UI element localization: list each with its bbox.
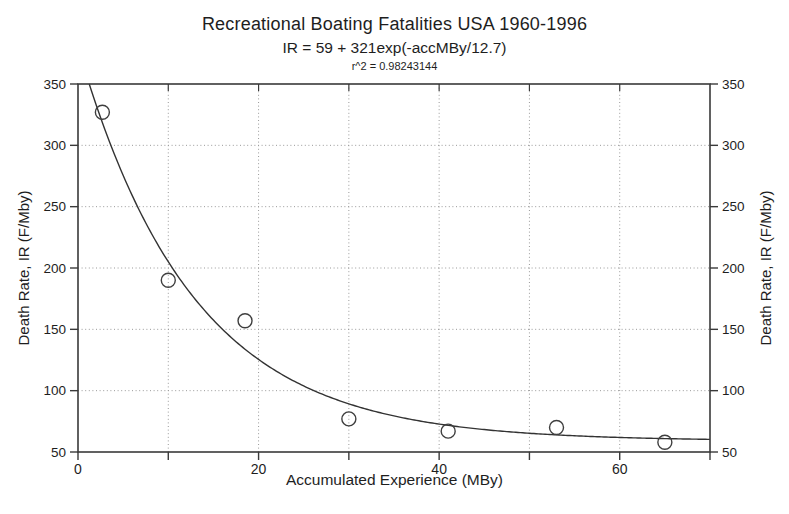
data-point (441, 424, 455, 438)
y-tick-label-left: 300 (43, 138, 66, 153)
x-tick-label: 0 (74, 461, 82, 477)
x-tick-label: 20 (251, 461, 267, 477)
data-point (658, 435, 672, 449)
y-tick-label-right: 50 (722, 445, 737, 460)
chart-figure: Recreational Boating Fatalities USA 1960… (0, 0, 789, 514)
y-tick-label-right: 100 (722, 383, 745, 398)
y-tick-label-left: 200 (43, 261, 66, 276)
plot-area: 0204060505010010015015020020025025030030… (0, 0, 789, 514)
x-tick-label: 60 (612, 461, 628, 477)
fit-curve (89, 84, 710, 439)
x-tick-label: 40 (431, 461, 447, 477)
y-tick-label-right: 350 (722, 77, 745, 92)
data-point (550, 420, 564, 434)
y-tick-label-left: 50 (51, 445, 66, 460)
y-tick-label-left: 250 (43, 199, 66, 214)
y-tick-label-right: 200 (722, 261, 745, 276)
y-tick-label-right: 150 (722, 322, 745, 337)
y-tick-label-left: 350 (43, 77, 66, 92)
data-point (95, 105, 109, 119)
y-tick-label-left: 150 (43, 322, 66, 337)
y-tick-label-right: 300 (722, 138, 745, 153)
data-point (238, 314, 252, 328)
y-tick-label-left: 100 (43, 383, 66, 398)
y-tick-label-right: 250 (722, 199, 745, 214)
